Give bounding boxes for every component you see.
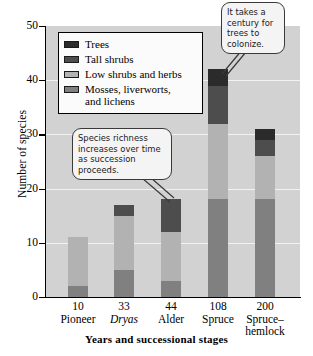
bar-segment-low-shrubs bbox=[68, 237, 88, 286]
bar-segment-low-shrubs bbox=[255, 156, 275, 199]
legend-item-tall-shrubs: Tall shrubs bbox=[64, 53, 196, 65]
x-label-years: 200 bbox=[229, 300, 301, 313]
bar-segment-low-shrubs bbox=[208, 124, 228, 200]
legend-label: Mosses, liverworts, bbox=[85, 83, 171, 95]
bar-segment-tall-shrubs bbox=[208, 86, 228, 124]
bar-alder bbox=[161, 199, 181, 297]
legend-swatch-tall-shrubs bbox=[64, 56, 79, 63]
legend-item-low-shrubs: Low shrubs and herbs bbox=[64, 68, 196, 80]
legend-label: Tall shrubs bbox=[85, 53, 133, 65]
callout-line: century for bbox=[227, 18, 279, 29]
callout-line: proceeds. bbox=[78, 165, 166, 176]
callout-trees-colonize: It takes a century for trees to colonize… bbox=[221, 2, 285, 54]
y-axis-title: Number of species bbox=[16, 89, 28, 219]
legend-label: Trees bbox=[85, 38, 109, 50]
callout-line: trees to bbox=[227, 28, 279, 39]
y-tick-mark-0 bbox=[39, 297, 45, 298]
legend-label: Low shrubs and herbs bbox=[85, 68, 182, 80]
legend-swatch-mosses bbox=[64, 86, 79, 93]
callout-line: as succession bbox=[78, 154, 166, 165]
callout-tail-richness bbox=[140, 176, 186, 210]
x-label-stage: Spruce– bbox=[229, 313, 301, 326]
bar-segment-mosses bbox=[255, 199, 275, 297]
legend: Trees Tall shrubs Low shrubs and herbs M… bbox=[58, 32, 203, 114]
bar-spruce-hemlock bbox=[255, 129, 275, 297]
x-axis-line bbox=[45, 297, 301, 298]
bar-segment-tall-shrubs bbox=[255, 140, 275, 156]
y-tick-mark-40 bbox=[39, 80, 45, 81]
callout-line: It takes a bbox=[227, 7, 279, 18]
callout-line: increases over time bbox=[78, 144, 166, 155]
legend-swatch-trees bbox=[64, 41, 79, 48]
y-tick-label-10: 10 bbox=[4, 237, 38, 249]
y-tick-mark-30 bbox=[39, 134, 45, 135]
bar-segment-mosses bbox=[208, 199, 228, 297]
bar-segment-mosses bbox=[161, 281, 181, 297]
x-axis-title: Years and successional stages bbox=[0, 333, 313, 345]
y-tick-label-0: 0 bbox=[4, 291, 38, 303]
bar-segment-trees bbox=[255, 129, 275, 140]
stacked-bar-chart-figure: 50 40 30 20 10 0 Number of species 10 Pi… bbox=[0, 0, 313, 356]
y-tick-mark-20 bbox=[39, 189, 45, 190]
bar-segment-tall-shrubs bbox=[114, 205, 134, 216]
y-axis-line bbox=[45, 26, 46, 298]
callout-species-richness: Species richness increases over time as … bbox=[72, 128, 172, 180]
y-tick-mark-50 bbox=[39, 26, 45, 27]
y-tick-label-50: 50 bbox=[4, 20, 38, 32]
bar-dryas bbox=[114, 205, 134, 297]
bar-pioneer bbox=[68, 237, 88, 297]
legend-item-trees: Trees bbox=[64, 38, 196, 50]
bar-segment-low-shrubs bbox=[161, 232, 181, 281]
legend-item-mosses: Mosses, liverworts, and lichens bbox=[64, 83, 196, 108]
bar-segment-low-shrubs bbox=[114, 216, 134, 270]
legend-swatch-low-shrubs bbox=[64, 71, 79, 78]
callout-line: Species richness bbox=[78, 133, 166, 144]
bar-segment-mosses bbox=[114, 270, 134, 297]
y-tick-mark-10 bbox=[39, 243, 45, 244]
bar-segment-mosses bbox=[68, 286, 88, 297]
legend-label-continued: and lichens bbox=[85, 95, 171, 107]
bar-spruce bbox=[208, 69, 228, 297]
callout-line: colonize. bbox=[227, 39, 279, 50]
y-tick-label-40: 40 bbox=[4, 74, 38, 86]
legend-label-wrap: Mosses, liverworts, and lichens bbox=[85, 83, 171, 108]
